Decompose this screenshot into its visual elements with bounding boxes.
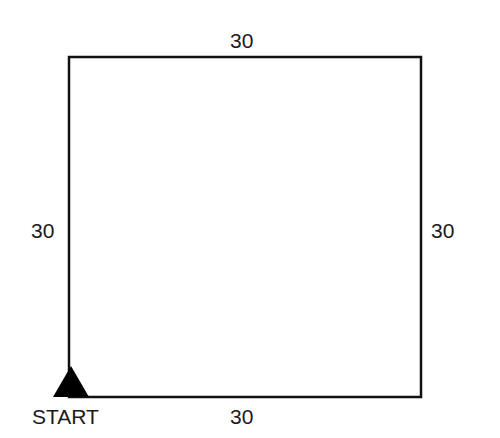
start-triangle-icon	[53, 366, 89, 397]
square-diagram	[0, 0, 500, 438]
left-side-label: 30	[31, 220, 54, 241]
start-label: START	[32, 406, 99, 427]
top-side-label: 30	[230, 30, 253, 51]
bottom-side-label: 30	[230, 406, 253, 427]
right-side-label: 30	[431, 220, 454, 241]
square-path	[69, 57, 421, 397]
